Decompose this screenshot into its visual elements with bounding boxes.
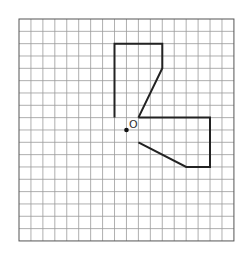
grid-diagram: O bbox=[0, 0, 245, 253]
center-label-o: O bbox=[129, 118, 138, 131]
